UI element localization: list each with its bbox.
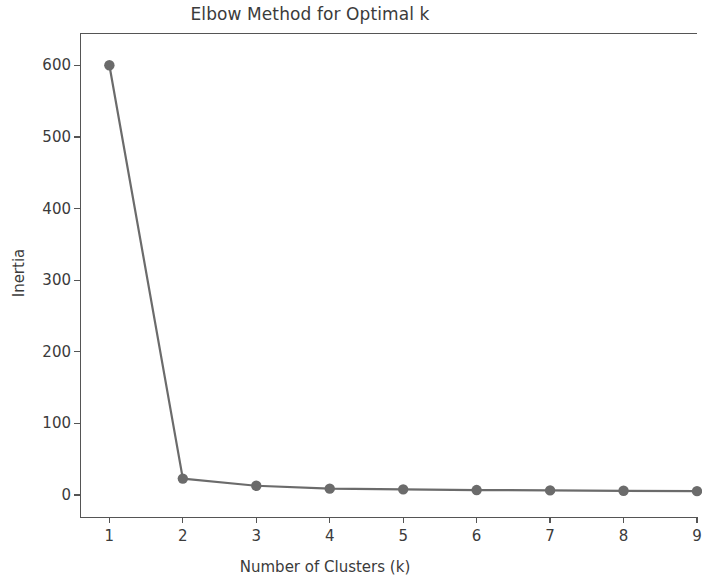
series-markers <box>104 60 702 496</box>
y-tick-label: 300 <box>42 271 71 289</box>
data-point <box>251 481 261 491</box>
y-tick-label: 0 <box>61 486 71 504</box>
x-tick-label: 3 <box>252 527 262 545</box>
x-tick-label: 8 <box>619 527 629 545</box>
chart-title: Elbow Method for Optimal k <box>0 4 620 24</box>
data-point <box>545 485 555 495</box>
x-axis-label: Number of Clusters (k) <box>0 558 650 576</box>
x-tick-label: 9 <box>692 527 702 545</box>
y-tick-label: 100 <box>42 414 71 432</box>
data-point <box>471 485 481 495</box>
x-tick-label: 6 <box>472 527 482 545</box>
y-tick-label: 600 <box>42 56 71 74</box>
x-tick-label: 5 <box>398 527 408 545</box>
data-point <box>692 486 702 496</box>
y-axis-label: Inertia <box>10 218 28 328</box>
y-tick-label: 500 <box>42 128 71 146</box>
y-tick-label: 200 <box>42 343 71 361</box>
data-point <box>398 484 408 494</box>
series-inertia <box>80 33 697 518</box>
y-tick-label: 400 <box>42 200 71 218</box>
x-tick-label: 7 <box>545 527 555 545</box>
x-tick-label: 4 <box>325 527 335 545</box>
data-point <box>618 486 628 496</box>
x-tick-label: 2 <box>178 527 188 545</box>
plot-area: 0100200300400500600 123456789 <box>80 33 697 518</box>
data-point <box>325 483 335 493</box>
series-line <box>109 65 697 491</box>
data-point <box>178 473 188 483</box>
x-tick-label: 1 <box>105 527 115 545</box>
data-point <box>104 60 114 70</box>
